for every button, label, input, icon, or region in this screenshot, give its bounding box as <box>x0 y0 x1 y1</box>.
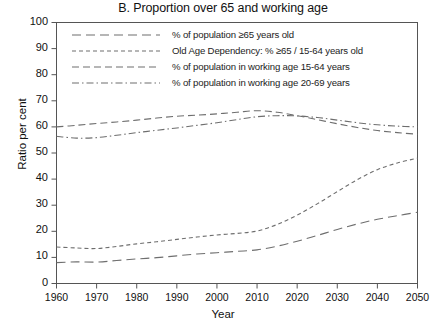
series-line-0 <box>57 212 418 262</box>
legend-sample-lines <box>72 35 160 83</box>
y-tick-label: 40 <box>6 171 48 183</box>
y-tick-label: 0 <box>6 276 48 288</box>
x-tick-label: 2050 <box>393 291 443 303</box>
series-lines <box>57 111 418 263</box>
y-tick-marks <box>52 23 57 284</box>
y-tick-label: 30 <box>6 197 48 209</box>
series-line-1 <box>57 158 418 248</box>
y-tick-label: 80 <box>6 67 48 79</box>
legend-label-working-age-20-69: % of population in working age 20-69 yea… <box>172 77 350 88</box>
y-tick-label: 10 <box>6 249 48 261</box>
y-tick-label: 60 <box>6 119 48 131</box>
y-tick-label: 90 <box>6 41 48 53</box>
legend-label-old-age-dependency: Old Age Dependency: % ≥65 / 15-64 years … <box>172 45 363 56</box>
series-line-2 <box>57 111 418 134</box>
x-tick-marks <box>57 284 418 289</box>
y-tick-label: 100 <box>6 15 48 27</box>
y-tick-label: 20 <box>6 223 48 235</box>
chart-figure: B. Proportion over 65 and working age Ra… <box>0 0 446 330</box>
legend-label-working-age-15-64: % of population in working age 15-64 yea… <box>172 61 350 72</box>
series-line-3 <box>57 116 418 139</box>
y-tick-label: 50 <box>6 145 48 157</box>
legend-label-pop-over-65: % of population ≥65 years old <box>172 29 294 40</box>
y-tick-label: 70 <box>6 93 48 105</box>
